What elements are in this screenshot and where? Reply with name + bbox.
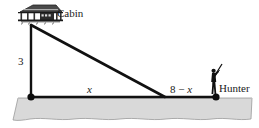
base-left-label: x bbox=[87, 84, 92, 95]
diagram-figure: Cabin Hunter 3 x 8 − x bbox=[0, 0, 259, 128]
cabin-label: Cabin bbox=[57, 8, 83, 19]
height-label: 3 bbox=[18, 56, 24, 67]
hunter-label: Hunter bbox=[219, 83, 250, 94]
ground-band bbox=[13, 98, 252, 120]
ground-right-dot bbox=[212, 93, 219, 100]
ground-left-dot bbox=[27, 93, 34, 100]
hypotenuse-line bbox=[31, 25, 165, 97]
diagram-canvas bbox=[0, 0, 259, 128]
base-right-label: 8 − x bbox=[170, 84, 192, 95]
base-right-x: x bbox=[187, 83, 192, 95]
